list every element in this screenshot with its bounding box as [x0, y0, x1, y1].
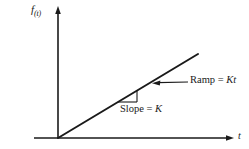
ramp-annotation-label: Ramp = Kt [190, 75, 236, 86]
ramp-annotation-variable: Kt [226, 74, 236, 85]
y-axis-arrowhead [55, 6, 61, 14]
ramp-function-figure: f(t) t Ramp = Kt Slope = K [0, 0, 249, 149]
ramp-callout-leader [152, 80, 188, 85]
slope-annotation-variable: K [155, 103, 162, 114]
y-axis-label: f(t) [31, 4, 41, 18]
x-axis-label: t [238, 131, 241, 141]
ramp-annotation-prefix: Ramp = [190, 74, 226, 85]
ramp-line [58, 54, 198, 138]
x-axis [34, 135, 234, 141]
x-axis-arrowhead [226, 135, 234, 141]
slope-annotation-label: Slope = K [120, 104, 162, 115]
slope-annotation-prefix: Slope = [120, 103, 155, 114]
ramp-leader-line [158, 82, 188, 83]
y-axis [55, 6, 61, 138]
y-axis-label-subscript: (t) [34, 9, 41, 18]
